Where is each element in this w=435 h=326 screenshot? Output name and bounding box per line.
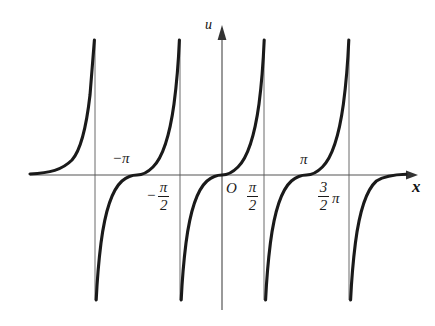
tick-label-minus-pi-over-2: − π 2 (146, 180, 169, 214)
tangent-branch-pi (266, 40, 349, 300)
u-axis (218, 25, 227, 310)
plot-canvas (0, 0, 435, 326)
tick-label-minus-pi: −π (112, 151, 130, 166)
x-axis-label: x (412, 178, 421, 195)
tick-label-three-halves-pi: 3 2 π (318, 180, 340, 214)
tangent-function-figure: −π − π 2 O π 2 π 3 2 π u x (0, 0, 435, 326)
u-axis-arrowhead (218, 25, 227, 40)
tangent-curve (30, 40, 406, 300)
fraction-pi-over-2: π 2 (247, 180, 258, 214)
origin-label: O (226, 181, 237, 196)
pi-symbol: π (332, 191, 340, 206)
tangent-branch-minus-pi (96, 40, 179, 300)
tick-label-pi: π (300, 152, 308, 167)
fraction-denominator: 2 (319, 198, 329, 213)
tangent-branch-far-right (351, 174, 406, 300)
fraction-denominator: 2 (159, 198, 169, 213)
tangent-branch-origin (181, 40, 264, 300)
tangent-branch-far-left (30, 40, 94, 174)
u-axis-label: u (205, 18, 212, 32)
fraction-numerator: π (159, 180, 169, 195)
fraction-denominator: 2 (248, 198, 258, 213)
fraction-pi-over-2-negative: π 2 (158, 180, 169, 214)
fraction-three-over-two: 3 2 (318, 180, 329, 214)
fraction-numerator: 3 (319, 180, 329, 195)
minus-sign-glyph: − (146, 188, 156, 203)
fraction-numerator: π (248, 180, 258, 195)
tick-label-pi-over-2: π 2 (247, 180, 258, 214)
